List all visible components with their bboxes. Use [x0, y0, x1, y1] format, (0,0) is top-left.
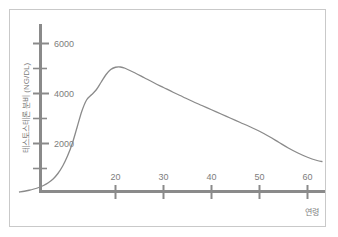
x-tick-label-30: 30: [158, 172, 168, 182]
chart-canvas: 6000 4000 2000 20 30 40 50 60 테스토스테론 분비 …: [0, 0, 338, 237]
y-tick-label-4000: 4000: [54, 89, 74, 99]
y-tick-label-6000: 6000: [54, 39, 74, 49]
figure-root: 6000 4000 2000 20 30 40 50 60 테스토스테론 분비 …: [0, 0, 338, 237]
x-tick-label-50: 50: [254, 172, 264, 182]
x-axis-title: 연령: [305, 208, 319, 217]
x-tick-label-40: 40: [206, 172, 216, 182]
data-curve-testosterone: [20, 67, 322, 192]
x-tick-label-60: 60: [302, 172, 312, 182]
x-tick-label-20: 20: [110, 172, 120, 182]
y-axis-title: 테스토스테론 분비 (NG/DL): [22, 63, 31, 154]
